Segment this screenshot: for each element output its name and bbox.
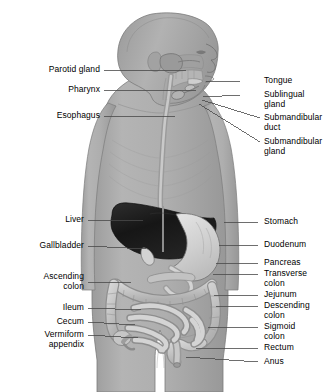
label-jejunum: Jejunum — [264, 290, 297, 300]
label-vermiform-appendix: Vermiform appendix — [18, 330, 84, 349]
label-duodenum: Duodenum — [264, 240, 306, 250]
label-liver: Liver — [44, 215, 84, 225]
anus-shape — [174, 363, 181, 368]
label-sigmoid-colon: Sigmoid colon — [264, 322, 295, 341]
label-ascending-colon: Ascending colon — [18, 272, 84, 291]
label-sublingual-gland: Sublingual gland — [264, 90, 305, 109]
label-descending-colon: Descending colon — [264, 301, 310, 320]
label-ileum: Ileum — [42, 303, 84, 313]
label-tongue: Tongue — [264, 76, 292, 86]
label-stomach: Stomach — [264, 217, 298, 227]
label-cecum: Cecum — [38, 317, 84, 327]
label-rectum: Rectum — [264, 343, 294, 353]
label-transverse-colon: Transverse colon — [264, 269, 307, 288]
label-pharynx: Pharynx — [42, 85, 100, 95]
label-esophagus: Esophagus — [30, 111, 100, 121]
label-anus: Anus — [264, 357, 284, 367]
label-submandibular-gland: Submandibular gland — [264, 137, 322, 156]
label-pancreas: Pancreas — [264, 258, 301, 268]
anatomy-figure: Parotid glandPharynxEsophagusLiverGallbl… — [0, 0, 326, 392]
label-gallbladder: Gallbladder — [12, 241, 84, 251]
label-parotid-gland: Parotid gland — [22, 65, 100, 75]
label-submandibular-duct: Submandibular duct — [264, 113, 322, 132]
